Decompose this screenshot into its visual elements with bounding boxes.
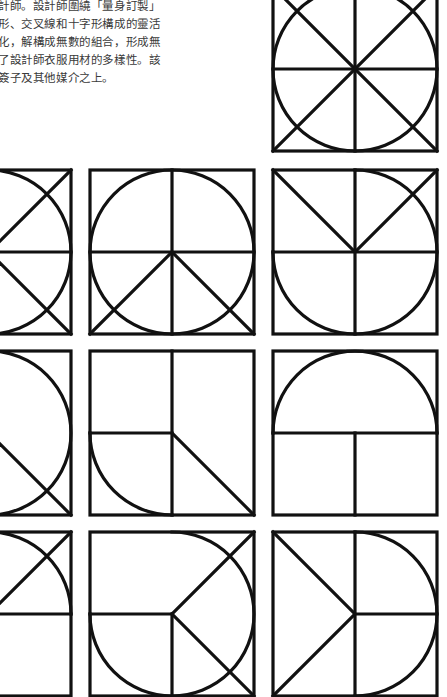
glyph-d-split xyxy=(273,170,437,334)
glyph-shape-icon xyxy=(273,351,437,515)
description-line: 化，解構成無數的組合，形成無 xyxy=(0,33,270,51)
glyph-shape-icon xyxy=(273,0,437,151)
glyph-shape-icon xyxy=(273,532,437,696)
glyph-shape-icon xyxy=(90,170,254,334)
glyph-shape-icon xyxy=(90,532,254,696)
glyph-right-semicircle-slash xyxy=(0,351,71,515)
glyph-d-arrow xyxy=(273,532,437,696)
glyph-full-circle-cross xyxy=(273,0,437,151)
description-line: 簽子及其他媒介之上。 xyxy=(0,69,270,87)
glyph-right-semicircle-chevron xyxy=(0,170,71,334)
description-line: 了設計師衣服用材的多樣性。該 xyxy=(0,51,270,69)
glyph-quarter-diagonal xyxy=(90,351,254,515)
glyph-quarter-arc-slash xyxy=(0,532,71,696)
description-text: 計師。設計師圍繞「量身訂製」 形、交叉線和十字形構成的靈活 化，解構成無數的組合… xyxy=(0,0,270,87)
glyph-peace xyxy=(90,170,254,334)
glyph-three-quarter-arrow xyxy=(90,532,254,696)
glyph-shape-icon xyxy=(0,170,71,334)
description-line: 形、交叉線和十字形構成的靈活 xyxy=(0,15,270,33)
description-line: 計師。設計師圍繞「量身訂製」 xyxy=(0,0,270,15)
glyph-arch xyxy=(273,351,437,515)
glyph-shape-icon xyxy=(90,351,254,515)
glyph-shape-icon xyxy=(0,532,71,696)
glyph-shape-icon xyxy=(0,351,71,515)
glyph-shape-icon xyxy=(273,170,437,334)
